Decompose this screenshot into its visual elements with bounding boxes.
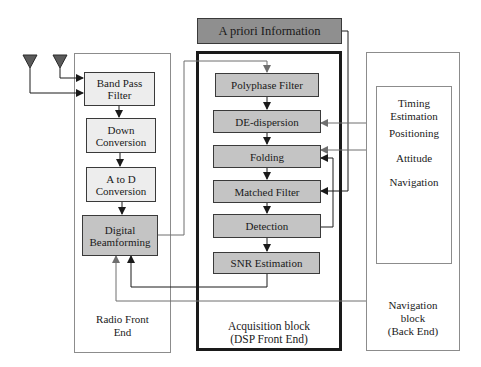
block-label: Folding [250,151,284,163]
down-conversion-block: Down Conversion [86,118,156,153]
block-label: DE-dispersion [235,116,299,128]
block-label: Polyphase Filter [231,79,303,91]
caption-line: Acquisition block [196,320,342,333]
caption-line: Radio Front [74,313,171,326]
caption-line: Navigation [366,299,460,312]
function-label: Navigation [376,176,452,189]
snr-estimation-block: SNR Estimation [213,252,320,274]
band-pass-filter-block: Band Pass Filter [84,72,155,106]
block-label: Beamforming [89,236,150,248]
de-dispersion-block: DE-dispersion [213,110,321,133]
navigation-block-caption: Navigation block (Back End) [366,299,460,338]
caption-line: End [74,326,171,339]
acquisition-block-caption: Acquisition block (DSP Front End) [196,320,342,346]
function-label: Attitude [376,152,452,165]
navigation-function-navigation: Navigation [376,176,452,189]
navigation-function-positioning: Positioning [376,127,452,140]
block-label: SNR Estimation [231,257,303,269]
function-label: Estimation [376,110,452,123]
block-label: Matched Filter [234,186,299,198]
digital-beamforming-block: Digital Beamforming [82,215,158,256]
apriori-information-block: A priori Information [197,18,342,44]
radio-front-end-caption: Radio Front End [74,313,171,339]
block-label: Down [108,124,135,136]
polyphase-filter-block: Polyphase Filter [215,73,319,97]
navigation-function-timing: Timing Estimation [376,97,452,123]
block-label: Digital [105,224,136,236]
navigation-function-attitude: Attitude [376,152,452,165]
caption-line: (Back End) [366,325,460,338]
apriori-label: A priori Information [218,25,320,37]
a-to-d-conversion-block: A to D Conversion [86,167,156,202]
block-label: Band Pass [97,77,143,89]
block-label: Filter [108,89,132,101]
block-label: A to D [106,173,135,185]
antenna-icon [23,55,67,68]
detection-block: Detection [213,214,321,238]
block-label: Conversion [96,136,147,148]
function-label: Positioning [376,127,452,140]
folding-block: Folding [213,145,321,168]
block-label: Detection [246,220,289,232]
function-label: Timing [376,97,452,110]
block-label: Conversion [96,185,147,197]
matched-filter-block: Matched Filter [213,180,321,203]
caption-line: block [366,312,460,325]
caption-line: (DSP Front End) [196,333,342,346]
